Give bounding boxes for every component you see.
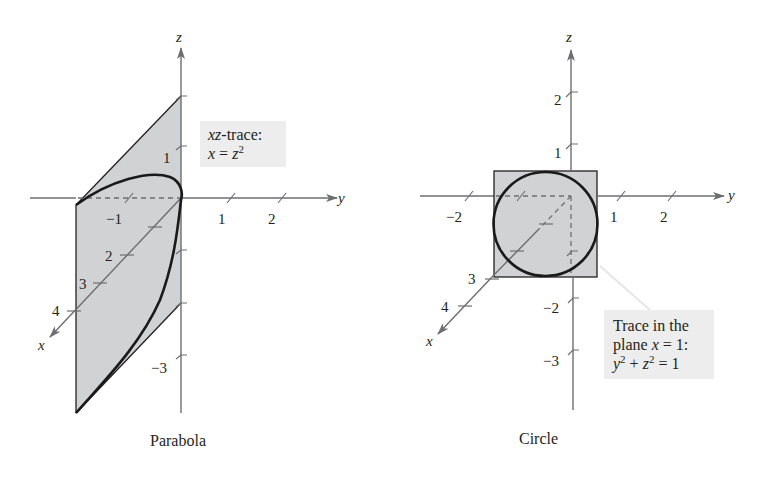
y-axis-label: y <box>726 187 735 203</box>
y-tick-2: 2 <box>268 211 276 227</box>
callout-eq: = <box>215 145 232 162</box>
y-axis-label: y <box>336 190 345 206</box>
y-tick-1: 1 <box>610 209 618 225</box>
circle-caption: Circle <box>519 430 558 448</box>
x-tick-2: 2 <box>105 248 113 264</box>
z-tick-neg2: −2 <box>543 300 559 316</box>
x-axis-label: x <box>37 337 45 353</box>
z-tick-1: 1 <box>163 150 171 166</box>
parabola-figure: z y x −1 1 2 1 −3 2 3 4 <box>30 29 345 413</box>
x-tick-4: 4 <box>52 303 60 319</box>
z-tick-neg3: −3 <box>543 353 559 369</box>
z-axis-label: z <box>175 29 182 45</box>
callout-xz: xz <box>208 126 221 143</box>
z-tick-1: 1 <box>554 145 562 161</box>
parabola-caption: Parabola <box>150 432 206 450</box>
diagram-canvas: z y x −1 1 2 1 −3 2 3 4 <box>0 0 761 482</box>
z-tick-neg3: −3 <box>151 360 167 376</box>
x-tick-4: 4 <box>441 299 449 315</box>
x-tick-3: 3 <box>468 271 476 287</box>
x-tick-3: 3 <box>79 276 87 292</box>
z-axis-label: z <box>565 29 572 45</box>
z-tick-2: 2 <box>554 92 562 108</box>
callout-exp: 2 <box>238 143 244 155</box>
y-tick-neg1: −1 <box>106 211 122 227</box>
callout-line1: Trace in the <box>613 316 705 335</box>
callout-plane: plane <box>613 336 652 353</box>
plane-trace-callout: Trace in the plane x = 1: y2 + z2 = 1 <box>604 310 714 379</box>
callout-eq1: = 1: <box>659 336 688 353</box>
y-tick-neg2: −2 <box>446 209 462 225</box>
callout-plus: + <box>626 355 643 372</box>
xz-trace-callout: xz-trace: x = z2 <box>200 121 286 167</box>
callout-x: x <box>652 336 659 353</box>
y-tick-2: 2 <box>660 209 668 225</box>
y-tick-1: 1 <box>218 211 226 227</box>
callout-trace-text: -trace: <box>221 126 262 143</box>
x-axis-label: x <box>425 333 433 349</box>
callout-eq-one: = 1 <box>654 355 679 372</box>
